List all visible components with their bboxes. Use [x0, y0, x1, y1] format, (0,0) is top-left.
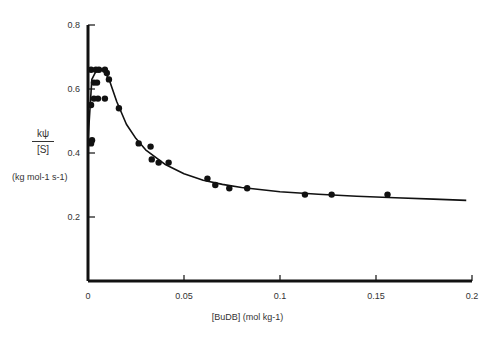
- data-point: [104, 70, 110, 76]
- y-axis-unit: (kg mol-1 s-1): [12, 172, 68, 182]
- data-point: [96, 67, 102, 73]
- y-tick-label: 0.6: [67, 84, 80, 94]
- data-point: [384, 191, 390, 197]
- data-point: [116, 105, 122, 111]
- x-tick-label: 0.15: [367, 291, 385, 301]
- x-tick-label: 0: [85, 291, 90, 301]
- data-point: [106, 76, 112, 82]
- y-axis-denominator: [S]: [37, 144, 49, 155]
- data-point: [88, 140, 94, 146]
- x-tick-label: 0.05: [175, 291, 193, 301]
- y-tick-label: 0.2: [67, 212, 80, 222]
- x-tick-label: 0.1: [274, 291, 287, 301]
- data-point: [147, 143, 153, 149]
- y-tick-label: 0.4: [67, 148, 80, 158]
- data-points: [88, 67, 391, 198]
- tick-labels: 00.050.10.150.20.20.40.60.8: [67, 20, 478, 301]
- data-point: [204, 175, 210, 181]
- y-tick-label: 0.8: [67, 20, 80, 30]
- y-axis-numerator: kψ: [37, 128, 49, 139]
- data-point: [302, 191, 308, 197]
- y-axis-label: kψ [S]: [18, 128, 68, 155]
- curve-line: [88, 68, 466, 200]
- data-point: [165, 159, 171, 165]
- data-point: [244, 185, 250, 191]
- axes: [88, 25, 472, 281]
- x-tick-label: 0.2: [466, 291, 479, 301]
- data-point: [95, 95, 101, 101]
- fitted-curve: [88, 68, 466, 200]
- x-axis-label: [BuDB] (mol kg-1): [0, 312, 495, 322]
- data-point: [149, 156, 155, 162]
- chart-canvas: 00.050.10.150.20.20.40.60.8: [0, 0, 495, 337]
- data-point: [328, 191, 334, 197]
- data-point: [88, 102, 94, 108]
- data-point: [212, 182, 218, 188]
- data-point: [102, 95, 108, 101]
- data-point: [155, 159, 161, 165]
- fraction-line: [32, 141, 54, 142]
- data-point: [94, 79, 100, 85]
- data-point: [135, 140, 141, 146]
- data-point: [226, 185, 232, 191]
